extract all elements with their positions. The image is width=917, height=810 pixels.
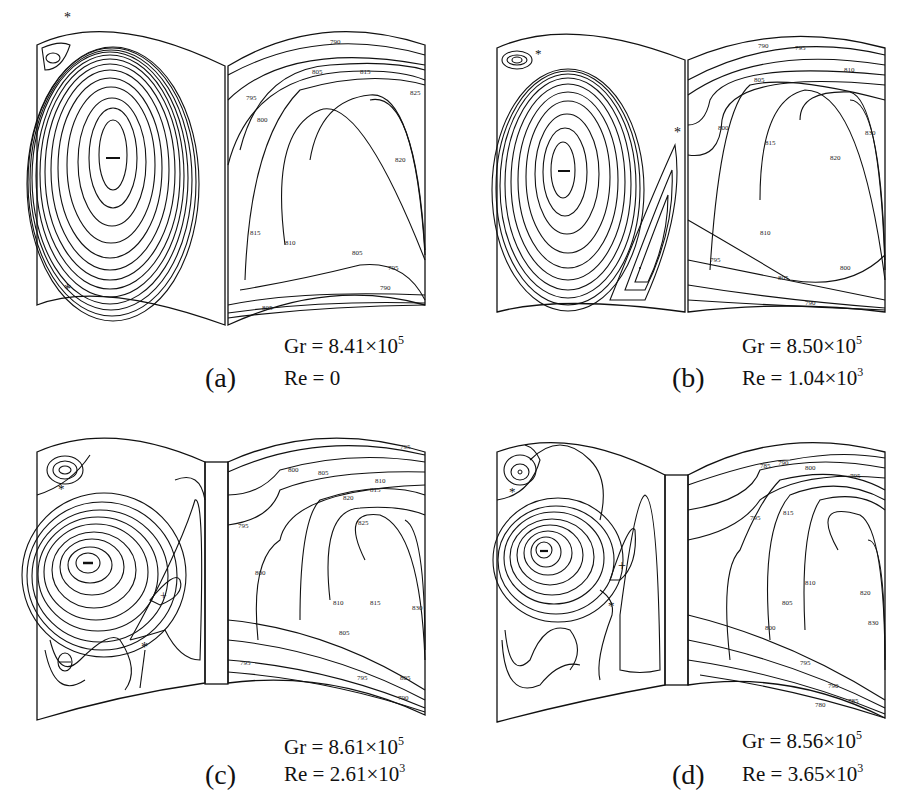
panel-a-re: Re = 0 [284,367,340,389]
isotherms [688,454,885,718]
svg-text:810: 810 [805,579,816,587]
svg-text:+: + [160,589,167,603]
svg-text:790: 790 [398,694,409,702]
svg-text:795: 795 [238,522,249,530]
svg-text:805: 805 [262,304,273,312]
svg-text:795: 795 [246,94,257,102]
svg-text:815: 815 [360,68,371,76]
isotherms [228,44,425,318]
svg-text:790: 790 [380,284,391,292]
svg-text:810: 810 [333,599,344,607]
svg-text:795: 795 [240,659,251,667]
panel-a-label: (a) [205,363,236,393]
svg-text:825: 825 [358,519,369,527]
svg-text:*: * [535,46,542,61]
panel-b: * * [460,0,917,405]
panel-d: * + * [460,400,917,805]
svg-text:805: 805 [400,674,411,682]
svg-text:800: 800 [840,264,851,272]
svg-text:795: 795 [710,256,721,264]
svg-text:805: 805 [339,629,350,637]
svg-text:800: 800 [255,569,266,577]
svg-text:800: 800 [257,116,268,124]
svg-text:*: * [509,484,516,499]
svg-text:790: 790 [330,38,341,46]
panel-d-label: (d) [672,760,705,790]
svg-text:830: 830 [412,604,423,612]
svg-text:815: 815 [370,599,381,607]
svg-text:795: 795 [400,443,411,451]
svg-text:800: 800 [805,464,816,472]
panel-a-gr: Gr = 8.41×105 [284,335,404,357]
panel-d-gr: Gr = 8.56×105 [742,730,862,752]
svg-text:820: 820 [395,156,406,164]
svg-text:790: 790 [805,299,816,307]
panel-b-label: (b) [672,363,705,393]
main-vortex-streamlines [27,47,199,321]
svg-text:*: * [608,598,615,613]
svg-text:800: 800 [288,466,299,474]
svg-text:795: 795 [800,659,811,667]
svg-text:825: 825 [410,89,421,97]
svg-text:785: 785 [848,697,859,705]
svg-text:780: 780 [815,701,826,709]
isotherms [688,47,885,310]
svg-text:810: 810 [285,239,296,247]
panel-a: * * [0,0,460,405]
svg-text:810: 810 [760,229,771,237]
svg-text:820: 820 [860,589,871,597]
panel-c-gr: Gr = 8.61×105 [284,736,404,758]
svg-text:815: 815 [250,229,261,237]
svg-text:800: 800 [765,624,776,632]
svg-text:805: 805 [312,68,323,76]
svg-text:805: 805 [782,599,793,607]
svg-text:+: + [618,558,626,573]
svg-text:805: 805 [352,249,363,257]
svg-text:795: 795 [357,674,368,682]
isotherms [228,446,425,712]
svg-text:815: 815 [765,139,776,147]
svg-text:800: 800 [718,124,729,132]
svg-text:820: 820 [830,154,841,162]
svg-text:830: 830 [868,619,879,627]
panel-b-gr: Gr = 8.50×105 [742,335,862,357]
panel-b-re: Re = 1.04×103 [742,367,863,389]
panel-d-re: Re = 3.65×103 [742,763,863,785]
svg-text:810: 810 [375,477,386,485]
svg-text:805: 805 [754,76,765,84]
svg-text:790: 790 [828,682,839,690]
svg-text:795: 795 [750,514,761,522]
svg-text:790: 790 [778,459,789,467]
main-vortex-streamlines [492,69,644,311]
panel-c-label: (c) [205,760,236,790]
svg-text:790: 790 [758,42,769,50]
svg-text:815: 815 [370,486,381,494]
panel-c-re: Re = 2.61×103 [284,763,405,785]
svg-text:810: 810 [844,66,855,74]
saddle-marker: * [64,10,71,25]
panel-c: * + * [0,400,460,805]
svg-text:830: 830 [865,129,876,137]
svg-text:*: * [58,481,65,496]
svg-text:820: 820 [343,494,354,502]
svg-text:*: * [674,125,681,140]
svg-text:795: 795 [388,264,399,272]
svg-text:785: 785 [760,462,771,470]
main-vortex-streamlines [493,445,623,688]
svg-text:815: 815 [783,509,794,517]
svg-text:805: 805 [778,274,789,282]
svg-text:805: 805 [318,469,329,477]
svg-text:795: 795 [795,44,806,52]
svg-text:795: 795 [850,472,861,480]
